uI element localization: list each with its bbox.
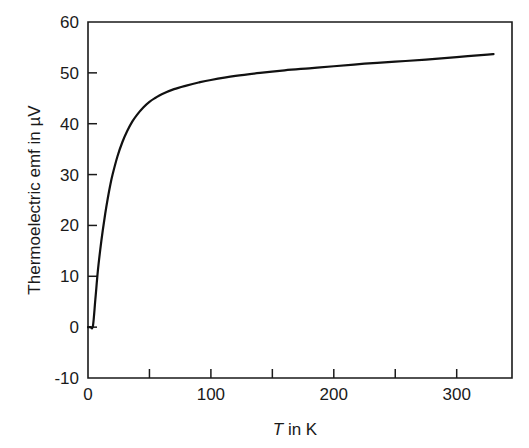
x-axis-tick-label: 100 (197, 385, 225, 404)
y-axis-tick-label: 20 (60, 216, 79, 235)
y-axis-tick-label: 60 (60, 13, 79, 32)
y-axis-title: Thermoelectric emf in µV (25, 105, 44, 295)
y-axis-tick-labels: -100102030405060 (54, 13, 79, 388)
y-axis-tick-label: 40 (60, 115, 79, 134)
thermoelectric-emf-line-chart: 0100200300 -100102030405060 T in K Therm… (0, 0, 529, 448)
data-series-group (88, 54, 494, 328)
x-axis-tick-labels: 0100200300 (83, 385, 471, 404)
plot-frame (88, 22, 512, 378)
y-axis-tick-label: 30 (60, 166, 79, 185)
y-axis-tick-label: 50 (60, 64, 79, 83)
y-axis-tick-label: 0 (70, 318, 79, 337)
x-axis-title: T in K (273, 420, 318, 439)
x-axis-tick-label: 0 (83, 385, 92, 404)
tick-marks-group (88, 73, 457, 378)
x-axis-title-rest: in K (283, 420, 318, 439)
y-axis-tick-label: 10 (60, 267, 79, 286)
x-axis-tick-label: 300 (443, 385, 471, 404)
plot-frame-border (88, 22, 512, 378)
emf-curve (88, 54, 494, 328)
x-axis-tick-label: 200 (320, 385, 348, 404)
chart-figure: 0100200300 -100102030405060 T in K Therm… (0, 0, 529, 448)
y-axis-tick-label: -10 (54, 369, 79, 388)
